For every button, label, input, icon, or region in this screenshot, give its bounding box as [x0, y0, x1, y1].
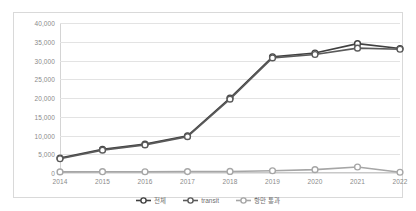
data-point-marker [100, 169, 106, 175]
series-line [60, 48, 400, 159]
x-axis-tick-label: 2016 [138, 178, 153, 185]
data-point-marker [142, 142, 148, 148]
legend-marker-icon [183, 196, 198, 205]
x-axis-tick-label: 2020 [308, 178, 323, 185]
plot-area: 40,00035,00030,00025,00020,00015,00010,0… [60, 23, 400, 173]
data-point-marker [397, 169, 403, 175]
x-axis-tick-label: 2015 [95, 178, 110, 185]
y-axis-tick-label: 5,000 [38, 151, 55, 158]
legend-item[interactable]: 전체 [136, 195, 166, 205]
y-axis-tick-label: 20,000 [35, 95, 55, 102]
legend-label: 항만 통과 [254, 195, 280, 205]
data-point-marker [57, 169, 63, 175]
legend-item[interactable]: transit [183, 196, 219, 205]
data-point-marker [227, 169, 233, 175]
y-axis-tick-label: 15,000 [35, 113, 55, 120]
data-point-marker [185, 134, 191, 140]
data-point-marker [270, 168, 276, 174]
data-point-marker [100, 147, 106, 153]
x-axis-tick-label: 2017 [180, 178, 195, 185]
legend-label: 전체 [154, 195, 166, 205]
chart-legend: 전체transit항만 통과 [14, 195, 402, 205]
data-point-marker [312, 167, 318, 173]
data-point-marker [397, 46, 403, 52]
y-axis-tick-label: 30,000 [35, 57, 55, 64]
y-axis-tick-label: 35,000 [35, 38, 55, 45]
y-axis-tick-label: 0 [51, 170, 55, 177]
data-point-marker [227, 96, 233, 102]
data-point-marker [355, 45, 361, 51]
y-axis-tick-label: 25,000 [35, 76, 55, 83]
legend-marker-icon [236, 196, 251, 205]
x-axis-tick-label: 2018 [223, 178, 238, 185]
chart-container: 40,00035,00030,00025,00020,00015,00010,0… [13, 12, 403, 198]
legend-item[interactable]: 항만 통과 [236, 195, 280, 205]
data-point-marker [57, 156, 63, 162]
data-point-marker [142, 169, 148, 175]
series-lines [60, 23, 400, 173]
x-axis-tick-label: 2022 [393, 178, 408, 185]
x-axis-tick-label: 2014 [53, 178, 68, 185]
data-point-marker [185, 169, 191, 175]
legend-marker-icon [136, 196, 151, 205]
data-point-marker [270, 55, 276, 61]
data-point-marker [355, 164, 361, 170]
x-axis-tick-label: 2021 [350, 178, 365, 185]
y-axis-tick-label: 40,000 [35, 20, 55, 27]
x-axis-tick-label: 2019 [265, 178, 280, 185]
legend-label: transit [201, 197, 219, 204]
data-point-marker [312, 52, 318, 58]
y-axis-tick-label: 10,000 [35, 132, 55, 139]
